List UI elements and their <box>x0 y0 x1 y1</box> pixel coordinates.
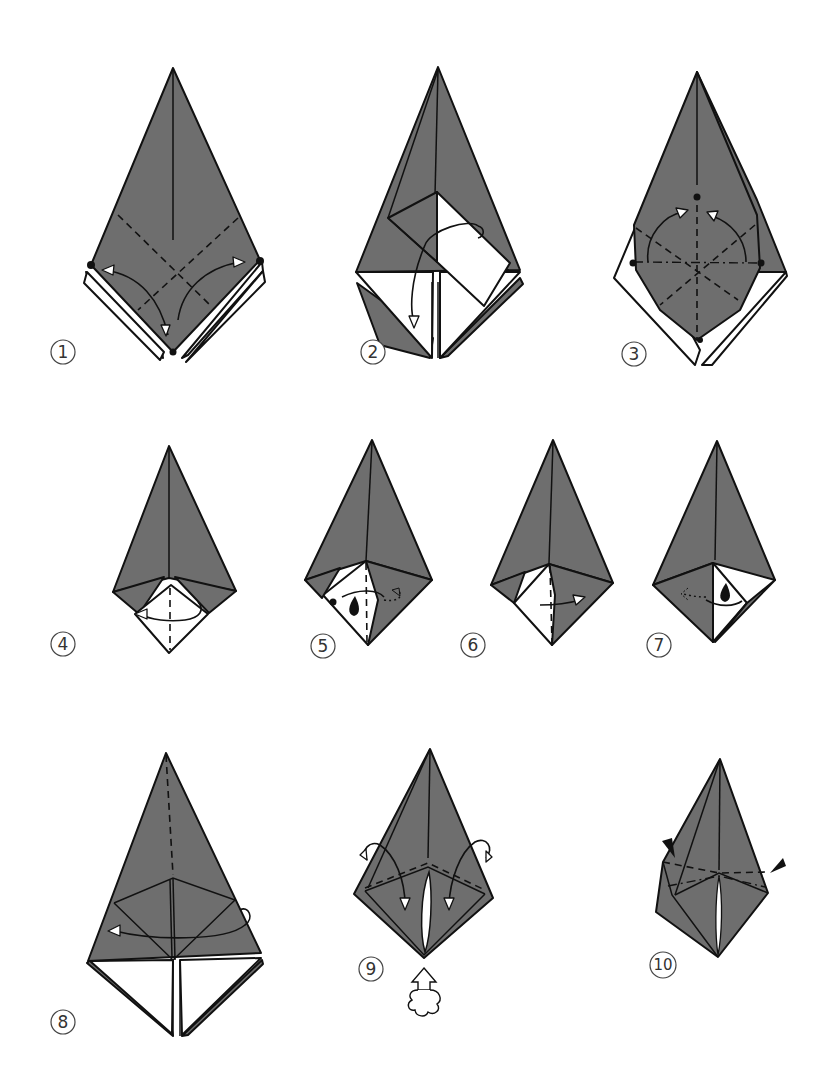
step-2: 2 <box>356 67 523 364</box>
reference-dot <box>256 257 264 265</box>
reference-dot <box>694 194 701 201</box>
svg-text:7: 7 <box>654 635 665 655</box>
step-label-2: 2 <box>361 340 385 364</box>
svg-text:1: 1 <box>58 342 69 362</box>
svg-text:4: 4 <box>58 634 69 654</box>
reverse-fold-marker-icon <box>770 858 786 873</box>
step-label-6: 6 <box>461 633 485 657</box>
step-1: 1 <box>51 68 265 364</box>
arrow-head <box>360 849 367 860</box>
step-10: 10 <box>650 759 786 978</box>
center-crease <box>719 762 720 870</box>
svg-text:9: 9 <box>366 959 377 979</box>
white-flap <box>713 563 747 642</box>
folded-shape <box>656 759 768 957</box>
step-label-4: 4 <box>51 632 75 656</box>
step-label-5: 5 <box>311 634 335 658</box>
step-label-9: 9 <box>359 957 383 981</box>
reference-dot <box>170 349 177 356</box>
svg-text:6: 6 <box>468 635 479 655</box>
white-flap-left <box>90 960 173 1034</box>
step-9: 9 <box>354 749 493 1016</box>
step-label-10: 10 <box>650 952 676 978</box>
step-3: 3 <box>614 72 787 366</box>
reference-dot <box>630 260 637 267</box>
step-label-1: 1 <box>51 340 75 364</box>
reference-dot <box>87 261 95 269</box>
kite-shape <box>113 446 236 592</box>
push-arrow-icon <box>412 968 436 990</box>
step-label-8: 8 <box>51 1010 75 1034</box>
reference-dot <box>330 599 337 606</box>
step-7: 7 <box>647 441 775 657</box>
svg-text:2: 2 <box>368 342 379 362</box>
step-5: 5 <box>305 440 432 658</box>
step-4: 4 <box>51 446 236 656</box>
reference-dot <box>758 260 765 267</box>
step-label-3: 3 <box>622 342 646 366</box>
step-label-7: 7 <box>647 633 671 657</box>
origami-diagram: 1 2 <box>0 0 824 1077</box>
svg-text:8: 8 <box>58 1012 69 1032</box>
white-flap-right <box>180 958 261 1035</box>
step-8: 8 <box>51 753 263 1036</box>
step-6: 6 <box>461 440 613 657</box>
svg-text:10: 10 <box>653 956 672 974</box>
push-cloud-icon <box>408 990 440 1016</box>
svg-text:3: 3 <box>629 344 640 364</box>
reference-dot <box>697 337 703 343</box>
svg-text:5: 5 <box>318 636 329 656</box>
